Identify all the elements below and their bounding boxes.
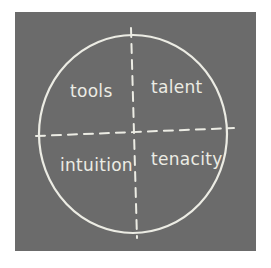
horizontal-dashed-axis — [36, 128, 234, 136]
quadrant-label-tenacity: tenacity — [151, 149, 223, 169]
quadrant-label-intuition: intuition — [60, 155, 133, 175]
quadrant-label-tools: tools — [70, 81, 113, 101]
quadrant-diagram: tools talent intuition tenacity — [0, 0, 271, 268]
quadrant-label-talent: talent — [151, 77, 203, 97]
